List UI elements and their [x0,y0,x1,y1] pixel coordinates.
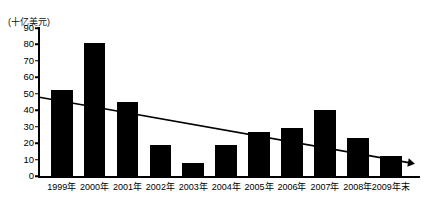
x-tick-label: 2009年末 [372,181,410,193]
y-tick-mark [35,60,39,62]
bar-series [38,0,420,209]
y-tick-mark [35,159,39,161]
y-tick-label: 70 [23,56,34,66]
bar [215,145,237,176]
y-tick-label: 50 [23,89,34,99]
bar [314,110,336,176]
bar [150,145,172,176]
bar [347,138,369,176]
y-tick-mark [35,175,39,177]
x-tick-label: 1999年 [47,181,76,193]
y-tick-mark [35,93,39,95]
y-tick-mark [35,142,39,144]
y-tick-label: 30 [23,122,34,132]
bar [281,128,303,176]
x-tick-label: 2008年 [343,181,372,193]
y-tick-mark [35,109,39,111]
y-tick-mark [35,27,39,29]
y-tick-label: 40 [23,105,34,115]
x-tick-label: 2004年 [212,181,241,193]
bar [182,163,204,176]
y-tick-mark [35,44,39,46]
y-tick-label: 80 [23,39,34,49]
x-tick-label: 2005年 [245,181,274,193]
x-tick-label: 2003年 [179,181,208,193]
y-tick-label: 10 [23,155,34,165]
y-tick-mark [35,77,39,79]
x-tick-label: 2000年 [80,181,109,193]
x-tick-label: 2006年 [277,181,306,193]
x-axis-labels: 1999年2000年2001年2002年2003年2004年2005年2006年… [38,181,420,201]
y-tick-mark [35,126,39,128]
x-tick-label: 2001年 [113,181,142,193]
bar [248,132,270,176]
x-tick-label: 2007年 [310,181,339,193]
bar-chart: (十亿美元) 0102030405060708090 1999年2000年200… [0,0,428,209]
bar [380,156,402,176]
bar [51,90,73,176]
y-tick-label: 60 [23,72,34,82]
y-tick-label: 0 [29,171,34,181]
bar [117,102,139,176]
x-tick-label: 2002年 [146,181,175,193]
y-tick-label: 90 [23,23,34,33]
y-axis-ticks: 0102030405060708090 [8,0,34,209]
bar [84,43,106,176]
y-tick-label: 20 [23,138,34,148]
